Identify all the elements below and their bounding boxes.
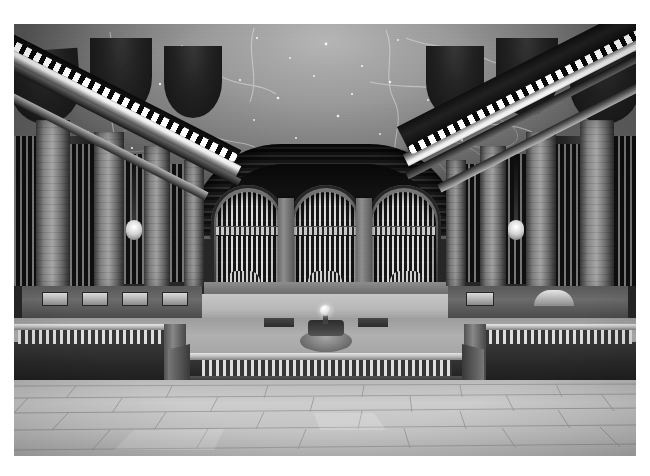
balcony-vent-right [390,271,424,282]
balcony-rail-right [476,324,636,330]
chandelier-chain-right [514,154,518,222]
balcony-balusters-left [18,328,168,344]
pier-left-4 [184,160,204,286]
window-transom-left [216,226,280,236]
ticket-window-2 [82,292,108,306]
window-transom-right [372,226,436,236]
balcony-vent-left [226,271,260,282]
chandelier-globe-left [126,220,142,240]
balcony-rail-left [14,324,174,330]
balcony-wall-right [464,342,636,382]
staircase-rail [182,353,470,360]
balcony-wall-left [14,342,186,382]
pier-right-2 [526,132,556,290]
cropped-caption-line: of the Terminal, the vaulted ceiling of … [14,0,636,1]
ticket-window-3 [122,292,148,306]
pendentive-fan-left-inner [164,46,222,118]
chandelier-globe-right [508,220,524,240]
pier-right-1 [580,120,614,292]
balcony-balusters-right [482,328,632,344]
departure-board-right [358,318,388,327]
ticket-window-1 [42,292,68,306]
foreground-marble-floor [14,380,636,456]
window-transom-center [294,226,358,236]
concourse-photograph [14,24,636,456]
page-root: of the Terminal, the vaulted ceiling of … [0,0,650,476]
balcony-vent-center [308,271,342,282]
ticket-window-4 [162,292,188,306]
south-wall-band [204,282,448,294]
cropped-text-sliver: of the Terminal, the vaulted ceiling of … [0,0,650,11]
floor-slab-joints [14,380,636,456]
staircase-balusters [202,358,452,376]
four-faced-clock [320,305,331,316]
bay-right-2 [552,144,580,286]
departure-board-left [264,318,294,327]
pier-left-1 [36,120,70,292]
east-counter-1 [466,292,494,306]
